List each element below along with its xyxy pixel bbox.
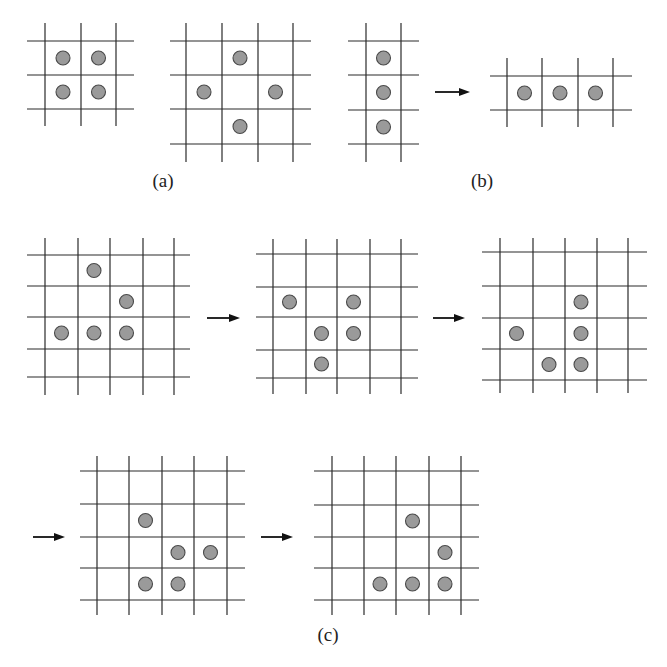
live-cell-icon [56,51,70,65]
live-cell-icon [204,546,218,560]
live-cell-icon [406,577,420,591]
live-cell-icon [542,358,556,372]
live-cell-icon [197,85,211,99]
glider-step-3-arrow [33,533,65,541]
live-cell-icon [315,327,329,341]
live-cell-icon [56,85,70,99]
live-cell-icon [347,295,361,309]
live-cell-icon [120,295,134,309]
arrow-right-icon [229,314,240,322]
glider-gen-2-grid [482,238,647,393]
game-of-life-diagram [0,0,667,667]
live-cell-icon [377,86,391,100]
tub-still-life-grid [170,23,311,162]
live-cell-icon [315,357,329,371]
arrow-right-icon [454,314,465,322]
glider-step-1-arrow [207,314,240,322]
live-cell-icon [233,120,247,134]
glider-step-4-arrow [261,533,293,541]
arrow-right-icon [282,533,293,541]
glider-gen-4-grid [314,456,479,615]
live-cell-icon [87,326,101,340]
live-cell-icon [438,577,452,591]
live-cell-icon [574,295,588,309]
live-cell-icon [347,327,361,341]
live-cell-icon [120,326,134,340]
arrow-right-icon [459,88,470,96]
live-cell-icon [574,327,588,341]
live-cell-icon [377,51,391,65]
live-cell-icon [55,326,69,340]
live-cell-icon [233,51,247,65]
live-cell-icon [139,577,153,591]
live-cell-icon [553,86,567,100]
label-a: (a) [152,170,173,192]
live-cell-icon [510,327,524,341]
arrow-right-icon [54,533,65,541]
live-cell-icon [171,577,185,591]
glider-gen-0-grid [27,238,190,395]
glider-gen-3-grid [80,456,245,615]
live-cell-icon [438,546,452,560]
live-cell-icon [406,514,420,528]
live-cell-icon [87,264,101,278]
live-cell-icon [92,51,106,65]
live-cell-icon [269,85,283,99]
blinker-vertical-grid [348,23,419,162]
live-cell-icon [574,358,588,372]
live-cell-icon [518,86,532,100]
glider-gen-1-grid [256,239,418,394]
live-cell-icon [171,546,185,560]
live-cell-icon [589,86,603,100]
label-b: (b) [471,170,493,192]
glider-step-2-arrow [433,314,465,322]
blinker-horizontal-grid [490,58,632,127]
live-cell-icon [377,120,391,134]
blinker-transition-arrow [435,88,470,96]
live-cell-icon [373,577,387,591]
label-c: (c) [317,624,338,646]
live-cell-icon [92,85,106,99]
live-cell-icon [139,514,153,528]
live-cell-icon [283,295,297,309]
block-still-life-grid [27,23,134,126]
